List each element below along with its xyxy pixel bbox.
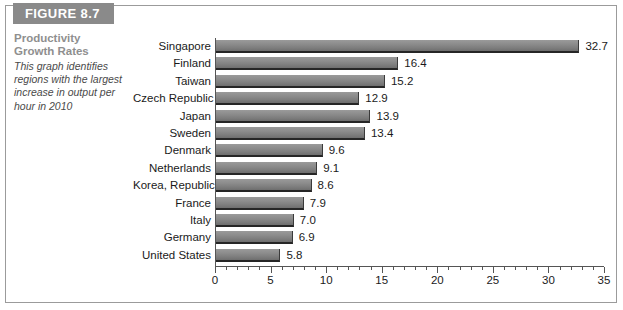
x-tick-minor [582, 267, 583, 270]
plot-area: Singapore32.7Finland16.4Taiwan15.2Czech … [133, 36, 611, 268]
x-tick-label: 15 [375, 274, 388, 286]
bar [216, 214, 294, 227]
bar-wrapper [216, 162, 317, 175]
bar-value-label: 8.6 [318, 177, 334, 194]
bar-wrapper [216, 197, 304, 210]
bar [216, 57, 398, 70]
caption-description: This graph identifies regions with the l… [14, 60, 132, 113]
x-tick-minor [371, 267, 372, 270]
x-tick-minor [593, 267, 594, 270]
bar-row: Italy7.0 [133, 212, 611, 229]
bar [216, 179, 312, 192]
bar-wrapper [216, 127, 365, 140]
bar-wrapper [216, 40, 579, 53]
figure-panel: FIGURE 8.7 Productivity Growth Rates Thi… [0, 0, 623, 310]
x-tick-minor [282, 267, 283, 270]
bar [216, 249, 280, 262]
bar-value-label: 13.9 [376, 108, 398, 125]
bar-value-label: 13.4 [371, 125, 393, 142]
bar-value-label: 6.9 [299, 229, 315, 246]
category-label: Italy [133, 212, 211, 229]
bar-row: Japan13.9 [133, 108, 611, 125]
bar [216, 197, 304, 210]
bar [216, 231, 293, 244]
bar-wrapper [216, 92, 359, 105]
x-tick-minor [415, 267, 416, 270]
x-tick-label: 30 [542, 274, 555, 286]
bar-wrapper [216, 179, 312, 192]
bar-chart: Singapore32.7Finland16.4Taiwan15.2Czech … [133, 36, 611, 288]
x-tick-minor [293, 267, 294, 270]
bar-row: Czech Republic12.9 [133, 90, 611, 107]
category-label: Germany [133, 229, 211, 246]
x-tick-major [493, 267, 494, 273]
x-tick-minor [515, 267, 516, 270]
bar-value-label: 32.7 [585, 38, 607, 55]
x-tick-minor [348, 267, 349, 270]
bar [216, 92, 359, 105]
x-tick-major [548, 267, 549, 273]
x-tick-minor [248, 267, 249, 270]
x-tick-minor [315, 267, 316, 270]
category-label: Denmark [133, 142, 211, 159]
bar [216, 40, 579, 53]
bar-row: Sweden13.4 [133, 125, 611, 142]
x-tick-label: 0 [212, 274, 218, 286]
x-tick-label: 35 [598, 274, 611, 286]
x-tick-minor [471, 267, 472, 270]
category-label: France [133, 195, 211, 212]
category-label: Korea, Republic of [133, 177, 211, 194]
bar-value-label: 16.4 [404, 55, 426, 72]
bar-wrapper [216, 231, 293, 244]
bar-row: Finland16.4 [133, 55, 611, 72]
x-tick-minor [571, 267, 572, 270]
x-tick-minor [560, 267, 561, 270]
caption-title: Productivity Growth Rates [14, 32, 132, 58]
x-tick-major [382, 267, 383, 273]
bar-row: Taiwan15.2 [133, 73, 611, 90]
x-tick-major [604, 267, 605, 273]
x-tick-label: 5 [267, 274, 273, 286]
x-tick-major [271, 267, 272, 273]
bar [216, 144, 323, 157]
x-tick-label: 10 [320, 274, 333, 286]
caption-title-line-1: Productivity [14, 32, 132, 45]
category-label: Taiwan [133, 73, 211, 90]
x-tick-minor [304, 267, 305, 270]
x-tick-major [437, 267, 438, 273]
bar-wrapper [216, 214, 294, 227]
bar [216, 127, 365, 140]
x-tick-minor [448, 267, 449, 270]
x-tick-minor [259, 267, 260, 270]
bar-value-label: 7.0 [300, 212, 316, 229]
x-tick-minor [226, 267, 227, 270]
bar [216, 110, 370, 123]
x-tick-minor [504, 267, 505, 270]
bar-value-label: 9.1 [323, 160, 339, 177]
category-label: Singapore [133, 38, 211, 55]
bar-value-label: 12.9 [365, 90, 387, 107]
bar-value-label: 5.8 [286, 247, 302, 264]
category-label: Sweden [133, 125, 211, 142]
bar-row: Singapore32.7 [133, 38, 611, 55]
x-tick-minor [537, 267, 538, 270]
x-tick-minor [526, 267, 527, 270]
bar-wrapper [216, 144, 323, 157]
x-tick-minor [237, 267, 238, 270]
x-tick-minor [426, 267, 427, 270]
bar [216, 162, 317, 175]
figure-number-label: FIGURE 8.7 [25, 6, 100, 21]
category-label: Czech Republic [133, 90, 211, 107]
bar-value-label: 9.6 [329, 142, 345, 159]
bar-row: Germany6.9 [133, 229, 611, 246]
bar-row: Denmark9.6 [133, 142, 611, 159]
bar [216, 75, 385, 88]
bar-row: Korea, Republic of8.6 [133, 177, 611, 194]
bar-value-label: 15.2 [391, 73, 413, 90]
x-axis-ticks: 05101520253035 [133, 267, 611, 288]
figure-caption: Productivity Growth Rates This graph ide… [14, 32, 132, 113]
category-label: United States [133, 247, 211, 264]
bar-row: United States5.8 [133, 247, 611, 264]
x-tick-minor [460, 267, 461, 270]
category-label: Finland [133, 55, 211, 72]
